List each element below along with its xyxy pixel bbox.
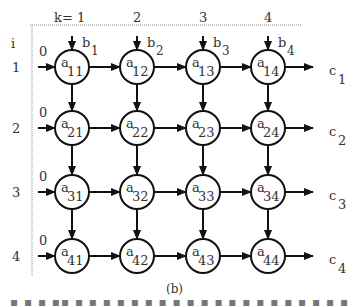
column-header-k2: 2 [133, 11, 141, 24]
row-header-i1: 1 [12, 61, 20, 74]
b-subscript-1: 1 [91, 45, 99, 57]
row-header-i: i [11, 37, 15, 50]
b-label-1: b [82, 36, 90, 49]
column-header-k4: 4 [264, 11, 272, 24]
cell-subscript-31: 31 [67, 190, 84, 203]
row-input-zero-3: 0 [39, 170, 47, 183]
diagram-lines [0, 0, 355, 307]
row-header-i2: 2 [12, 122, 20, 135]
row-input-zero-4: 0 [39, 234, 47, 247]
column-header-k1: k= 1 [54, 11, 85, 24]
cell-subscript-12: 12 [132, 65, 149, 78]
cell-subscript-14: 14 [263, 65, 280, 78]
truncated-caption-text: ▪ ▪ ▪ ▪▪ ▪ ▪ ▪ ▪ ▪ ▪ ▪ ▪ ▪ ▪ ▪ ▪ ▪ ▪ ▪ ▪… [0, 299, 355, 307]
b-label-3: b [213, 36, 221, 49]
output-label-c3: c [329, 189, 336, 202]
cell-subscript-34: 34 [263, 190, 280, 203]
b-label-4: b [278, 36, 286, 49]
cell-subscript-32: 32 [132, 190, 149, 203]
cell-subscript-21: 21 [67, 126, 84, 139]
output-subscript-c1: 1 [338, 73, 346, 86]
cell-subscript-22: 22 [132, 126, 149, 139]
row-input-zero-1: 0 [39, 45, 47, 58]
column-header-k3: 3 [199, 11, 207, 24]
row-header-i3: 3 [12, 186, 20, 199]
cell-subscript-44: 44 [263, 254, 280, 267]
output-subscript-c3: 3 [338, 198, 346, 211]
systolic-array-diagram: i k= 1b12b23b34b410a11a12a13a14c120a21a2… [0, 0, 355, 307]
cell-subscript-24: 24 [263, 126, 280, 139]
b-subscript-2: 2 [156, 45, 164, 57]
figure-caption: (b) [166, 282, 183, 296]
output-label-c1: c [329, 64, 336, 77]
output-label-c4: c [329, 253, 336, 266]
cell-subscript-13: 13 [198, 65, 215, 78]
b-label-2: b [147, 36, 155, 49]
output-subscript-c4: 4 [338, 262, 346, 275]
cell-subscript-11: 11 [67, 65, 84, 78]
b-subscript-4: 4 [287, 45, 295, 57]
cell-subscript-42: 42 [132, 254, 149, 267]
row-header-i4: 4 [12, 250, 20, 263]
cell-subscript-41: 41 [67, 254, 84, 267]
cell-subscript-23: 23 [198, 126, 215, 139]
cell-subscript-33: 33 [198, 190, 215, 203]
row-input-zero-2: 0 [39, 106, 47, 119]
b-subscript-3: 3 [222, 45, 230, 57]
cell-subscript-43: 43 [198, 254, 215, 267]
output-label-c2: c [329, 125, 336, 138]
output-subscript-c2: 2 [338, 134, 346, 147]
